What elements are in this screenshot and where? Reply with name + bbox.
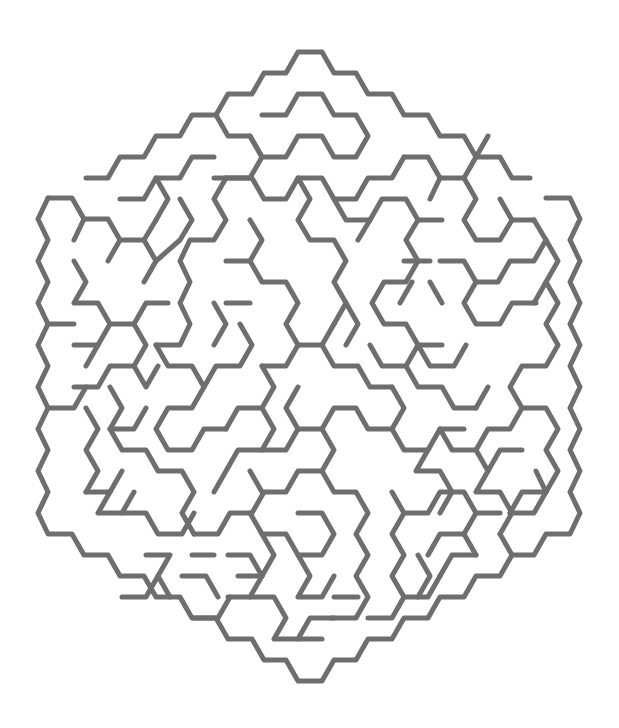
hexagonal-maze [0,0,619,728]
maze-canvas [0,0,619,728]
